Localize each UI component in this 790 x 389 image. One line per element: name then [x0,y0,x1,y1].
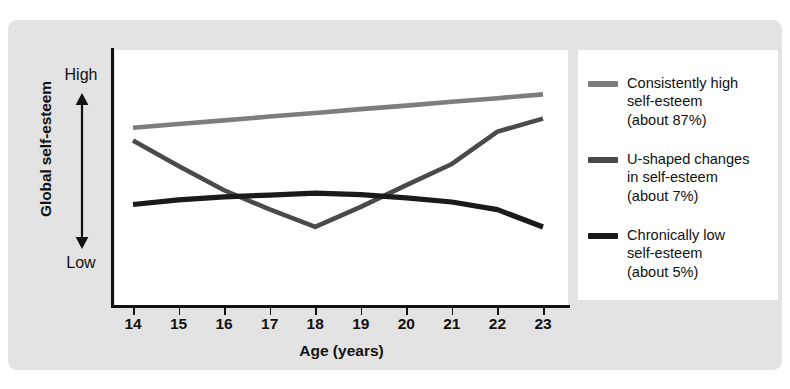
x-axis-title: Age (years) [115,342,568,360]
x-axis-tick-label: 15 [162,315,196,333]
x-axis-tick [361,307,363,315]
x-axis-tick [406,307,408,315]
x-axis-tick-label: 22 [480,315,514,333]
legend-item[interactable]: Chronically low self-esteem (about 5%) [588,226,774,281]
x-axis-tick-label: 21 [435,315,469,333]
x-axis-tick [270,307,272,315]
x-axis-tick [543,307,545,315]
x-axis-tick-label: 20 [389,315,423,333]
x-axis-tick [179,307,181,315]
x-axis-tick-label: 19 [344,315,378,333]
legend-item[interactable]: U-shaped changes in self-esteem (about 7… [588,150,774,205]
x-axis-tick [224,307,226,315]
x-axis-ticks [115,307,568,315]
x-axis-tick [315,307,317,315]
x-axis-tick [452,307,454,315]
y-axis-high-label: High [52,66,110,84]
series-lines [115,50,568,305]
double-arrow-icon [72,92,92,250]
series-line [133,94,543,127]
legend-label: Chronically low self-esteem (about 5%) [627,226,774,281]
x-axis-tick [133,307,135,315]
series-line [133,193,543,227]
x-axis-tick-label: 14 [116,315,150,333]
plot-area [115,50,568,305]
x-axis-tick-label: 16 [207,315,241,333]
y-axis-low-label: Low [52,254,110,272]
legend-item[interactable]: Consistently high self-esteem (about 87%… [588,74,774,129]
y-axis-line [111,48,114,307]
x-axis-tick-label: 17 [253,315,287,333]
legend-swatch-icon [588,233,618,239]
x-axis-tick-label: 23 [526,315,560,333]
legend: Consistently high self-esteem (about 87%… [578,50,778,300]
legend-label: U-shaped changes in self-esteem (about 7… [627,150,774,205]
x-axis-tick [497,307,499,315]
x-axis-tick-labels: 14151617181920212223 [115,315,568,337]
legend-label: Consistently high self-esteem (about 87%… [627,74,774,129]
legend-swatch-icon [588,81,618,87]
legend-swatch-icon [588,157,618,163]
y-axis-group: Global self-esteem High Low [8,30,115,310]
figure-panel: Global self-esteem High Low 141516171819… [8,20,782,370]
series-line [133,119,543,227]
x-axis-tick-label: 18 [298,315,332,333]
